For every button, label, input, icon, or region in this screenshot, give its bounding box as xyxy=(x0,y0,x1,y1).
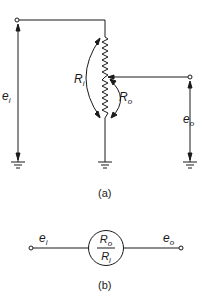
wiper-arrow-icon xyxy=(108,75,114,79)
ground-right-icon xyxy=(183,162,197,168)
block-denominator: Ri xyxy=(91,251,121,265)
label-ri: Ri xyxy=(74,73,84,88)
caption-a: (a) xyxy=(98,188,111,199)
output-terminal xyxy=(188,75,192,79)
ground-left-icon xyxy=(11,162,25,168)
top-wire xyxy=(19,20,105,37)
ri-arc xyxy=(86,39,100,117)
label-block-ei: ei xyxy=(39,232,47,247)
block-output-terminal xyxy=(179,246,183,250)
caption-b: (b) xyxy=(98,280,111,291)
potentiometer-resistor xyxy=(102,37,108,118)
label-block-eo: eo xyxy=(163,232,174,247)
input-terminal xyxy=(15,18,19,22)
block-numerator: Ro xyxy=(91,234,121,248)
block-input-terminal xyxy=(29,246,33,250)
label-ro: Ro xyxy=(119,91,132,106)
label-eo: eo xyxy=(183,113,194,128)
ground-center-icon xyxy=(98,162,112,168)
figure-canvas: ei Ri Ro eo (a) ei eo Ro Ri (b) xyxy=(0,0,208,307)
label-ei: ei xyxy=(2,90,10,105)
